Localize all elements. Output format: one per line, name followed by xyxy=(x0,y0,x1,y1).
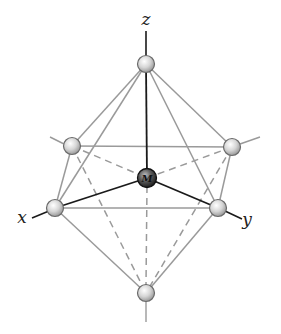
octahedron-diagram: M z x y xyxy=(0,0,281,334)
ligand-front-right xyxy=(210,200,227,217)
ligand-back-left xyxy=(64,138,81,155)
ligand-back-right xyxy=(224,139,241,156)
y-axis-ext xyxy=(225,211,242,219)
ligand-front-left xyxy=(47,200,64,217)
ligand-bottom xyxy=(138,285,155,302)
z-axis-label: z xyxy=(141,9,152,29)
axis-lines xyxy=(32,31,242,219)
x-axis-label: x xyxy=(17,207,27,227)
ligand-top xyxy=(138,56,155,73)
metal-ligand-bonds xyxy=(55,64,218,208)
y-axis-label: y xyxy=(241,209,252,229)
x-axis-ext xyxy=(32,211,49,218)
metal-label: M xyxy=(140,173,153,184)
